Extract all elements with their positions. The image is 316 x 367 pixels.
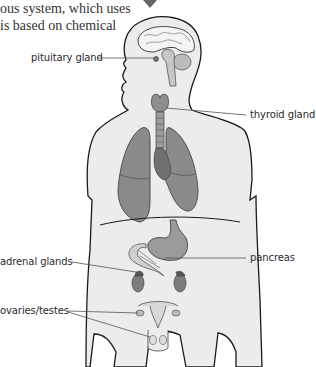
- pituitary-gland: [154, 57, 159, 62]
- left-kidney: [132, 274, 144, 292]
- adrenal-gland-left: [135, 271, 143, 276]
- label-pancreas: pancreas: [250, 252, 295, 263]
- ovary-right: [172, 310, 180, 316]
- label-pituitary-gland: pituitary gland: [31, 52, 103, 63]
- cerebellum: [173, 54, 191, 70]
- label-thyroid-gland: thyroid gland: [250, 109, 315, 120]
- label-ovaries-testes: ovaries/testes: [0, 305, 69, 316]
- label-adrenal-glands: adrenal glands: [0, 256, 73, 267]
- right-kidney: [174, 274, 186, 292]
- testis-right: [160, 336, 167, 345]
- testis-left: [150, 336, 157, 345]
- down-arrow-icon: [143, 0, 157, 8]
- thyroid-gland: [151, 94, 168, 112]
